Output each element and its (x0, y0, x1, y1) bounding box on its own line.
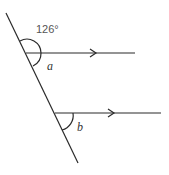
angle-arc-a (33, 53, 41, 66)
diagram-canvas: 126° a b (0, 0, 169, 175)
transversal-line (6, 13, 78, 163)
angle-label-b: b (77, 120, 83, 134)
angle-label-a: a (47, 59, 53, 73)
angle-arc-126 (20, 39, 41, 53)
angle-arc-b (62, 113, 73, 130)
angle-label-126: 126° (36, 23, 59, 35)
